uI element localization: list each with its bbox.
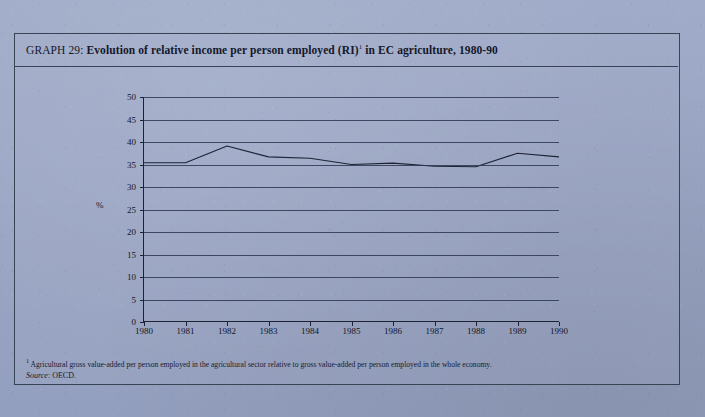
y-axis-tick-mark <box>140 210 144 211</box>
y-axis-tick-mark <box>140 120 144 121</box>
y-axis-tick-label: 35 <box>114 160 136 170</box>
y-axis-tick-mark <box>140 277 144 278</box>
y-axis-tick-label: 0 <box>114 317 136 327</box>
y-axis-tick-labels: 05101520253035404550 <box>112 97 136 322</box>
y-axis-tick-mark <box>140 255 144 256</box>
gridline <box>144 165 559 166</box>
y-axis-tick-mark <box>140 97 144 98</box>
footnote: 1 Agricultural gross value-added per per… <box>26 357 656 370</box>
source-value: OECD. <box>52 371 76 380</box>
y-axis-tick-label: 40 <box>114 137 136 147</box>
y-axis-unit-label: % <box>96 200 104 210</box>
gridline <box>144 255 559 256</box>
gridline <box>144 300 559 301</box>
y-axis-tick-label: 15 <box>114 250 136 260</box>
gridline <box>144 277 559 278</box>
title-tail-text: in EC agriculture, 1980-90 <box>362 44 498 56</box>
y-axis-tick-label: 5 <box>114 295 136 305</box>
x-axis-tick-label: 1985 <box>343 326 361 336</box>
x-axis-tick-label: 1982 <box>218 326 236 336</box>
title-main-text: Evolution of relative income per person … <box>86 44 358 56</box>
gridline <box>144 120 559 121</box>
gridline <box>144 232 559 233</box>
y-axis-tick-mark <box>140 232 144 233</box>
x-axis-tick-label: 1984 <box>301 326 319 336</box>
y-axis-tick-mark <box>140 165 144 166</box>
y-axis-tick-label: 25 <box>114 205 136 215</box>
x-axis-tick-label: 1980 <box>135 326 153 336</box>
x-axis-tick-label: 1989 <box>509 326 527 336</box>
plot-area <box>144 97 559 322</box>
source-label: Source <box>26 371 48 380</box>
page-title: GRAPH 29: Evolution of relative income p… <box>26 43 666 56</box>
gridline <box>144 97 559 98</box>
x-axis-tick-label: 1990 <box>550 326 568 336</box>
y-axis-tick-label: 10 <box>114 272 136 282</box>
x-axis-tick-labels: 1980198119821983198419851986198719881989… <box>144 326 559 340</box>
x-axis-tick-label: 1986 <box>384 326 402 336</box>
footnote-text: Agricultural gross value-added per perso… <box>29 360 492 369</box>
y-axis-tick-mark <box>140 300 144 301</box>
source-note: Source: OECD. <box>26 371 76 380</box>
gridline <box>144 210 559 211</box>
x-axis-tick-label: 1988 <box>467 326 485 336</box>
graph-number-label: GRAPH 29 <box>26 44 80 56</box>
x-axis-tick-label: 1983 <box>260 326 278 336</box>
x-axis-tick-label: 1987 <box>426 326 444 336</box>
y-axis-tick-mark <box>140 142 144 143</box>
title-divider-rule <box>14 66 678 67</box>
gridline <box>144 187 559 188</box>
y-axis-tick-mark <box>140 187 144 188</box>
y-axis-tick-label: 30 <box>114 182 136 192</box>
y-axis-tick-label: 20 <box>114 227 136 237</box>
x-axis-tick-label: 1981 <box>177 326 195 336</box>
y-axis-tick-label: 50 <box>114 92 136 102</box>
y-axis-tick-label: 45 <box>114 115 136 125</box>
gridline <box>144 142 559 143</box>
